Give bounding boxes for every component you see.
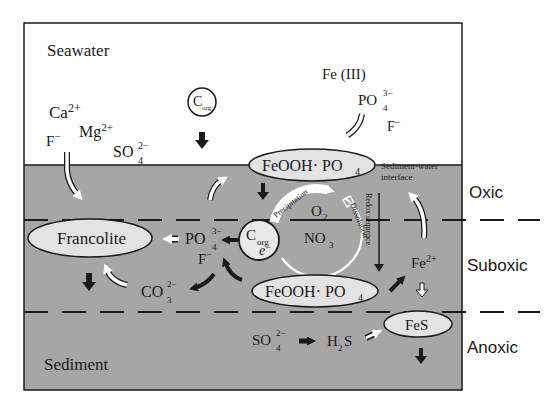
svg-text:4: 4 (138, 155, 143, 166)
interface-label-line2: interface (381, 172, 412, 182)
suboxic-zone-label: Suboxic (467, 256, 528, 275)
svg-text:2−: 2− (276, 328, 286, 338)
svg-text:4: 4 (276, 343, 281, 353)
organic-carbon-particle-sediment: C org e− (239, 220, 279, 260)
sediment-label: Sediment (44, 355, 108, 374)
svg-text:H: H (327, 333, 338, 349)
francolite-ellipse: Francolite (28, 219, 152, 257)
svg-text:2: 2 (338, 343, 343, 353)
svg-text:O: O (311, 203, 322, 219)
svg-text:2−: 2− (167, 279, 177, 289)
redox-sequence-label: Redox sequence (364, 193, 373, 246)
svg-text:SO: SO (113, 143, 133, 160)
oxic-zone-label: Oxic (469, 183, 504, 202)
svg-text:3−: 3− (383, 88, 393, 98)
svg-text:Francolite: Francolite (57, 229, 126, 248)
svg-text:C: C (193, 94, 202, 109)
svg-text:SO: SO (252, 332, 271, 348)
svg-text:4: 4 (358, 292, 363, 303)
iron-iii-label: Fe (III) (322, 66, 366, 83)
seawater-label: Seawater (47, 41, 110, 60)
interface-label-line1: Sediment-water (381, 161, 438, 171)
organic-carbon-particle-top: C org (188, 88, 216, 116)
feooh-po4-top-ellipse: FeOOH· PO 4 (249, 149, 375, 181)
svg-text:C: C (246, 227, 256, 243)
svg-text:org: org (202, 104, 212, 112)
fes-ellipse: FeS (384, 311, 452, 337)
svg-text:4: 4 (212, 242, 217, 252)
svg-text:NO: NO (304, 230, 326, 246)
svg-text:PO: PO (358, 92, 377, 108)
svg-text:3: 3 (329, 240, 334, 250)
svg-text:3−: 3− (212, 226, 222, 236)
svg-text:4: 4 (383, 103, 388, 113)
svg-text:PO: PO (185, 230, 205, 247)
svg-text:FeOOH· PO: FeOOH· PO (262, 157, 342, 174)
svg-text:S: S (344, 333, 352, 349)
feooh-po4-bottom-ellipse: FeOOH· PO 4 (252, 275, 378, 307)
sediment-phosphorus-cycle-diagram: Seawater Sediment Oxic Suboxic Anoxic Ca… (0, 0, 556, 413)
svg-text:3: 3 (167, 295, 172, 305)
svg-text:FeS: FeS (405, 317, 428, 333)
svg-text:2−: 2− (138, 140, 149, 151)
svg-text:4: 4 (355, 166, 360, 177)
svg-text:CO: CO (141, 283, 163, 300)
anoxic-zone-label: Anoxic (467, 338, 519, 357)
svg-text:FeOOH· PO: FeOOH· PO (265, 283, 345, 300)
